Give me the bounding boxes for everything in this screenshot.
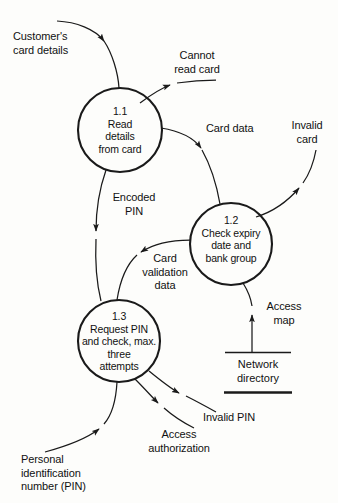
flow-cannot-read-card-tail (177, 80, 216, 83)
process-1-3-label: 1.3 Request PIN and check, max. three at… (70, 310, 168, 373)
flow-access-authorization-tail (164, 408, 194, 428)
flow-personal-identification-number-arrow (45, 429, 99, 452)
flow-label-card-validation-data: Card validation data (136, 252, 194, 293)
flow-invalid-card-arrow (256, 188, 299, 217)
flow-label-personal-identification-number: Personal identification number (PIN) (21, 453, 113, 494)
flow-invalid-card-tail (303, 150, 316, 183)
flow-cannot-read-card-arrow (140, 85, 170, 103)
flow-encoded-pin-tail (96, 239, 101, 301)
flow-label-card-data: Card data (206, 122, 264, 136)
flow-card-validation-data-arrow (141, 240, 190, 252)
process-1-1-label: 1.1 Read details from card (78, 105, 162, 155)
flow-access-authorization-arrow (135, 379, 158, 403)
flow-label-encoded-pin: Encoded PIN (106, 191, 162, 218)
datastore-network-directory-label: Network directory (222, 358, 294, 385)
flow-card-validation-data-tail (117, 255, 137, 300)
flow-label-invalid-pin: Invalid PIN (203, 411, 273, 425)
flow-invalid-pin-arrow (149, 371, 179, 393)
flow-card-data-arrow (161, 128, 201, 148)
flow-label-customers-card-details: Customer's card details (13, 30, 109, 57)
flow-access-map-tail (243, 283, 252, 306)
process-1-2-label: 1.2 Check expiry date and bank group (184, 214, 278, 264)
flow-invalid-pin-tail (186, 396, 216, 412)
flow-card-data-tail (202, 150, 220, 204)
flow-personal-identification-number-tail (104, 382, 117, 424)
flow-label-invalid-card: Invalid card (283, 119, 331, 146)
dfd-canvas: 1.1 Read details from card 1.2 Check exp… (0, 0, 338, 503)
flow-label-access-map: Access map (260, 300, 308, 327)
flow-label-cannot-read-card: Cannot read card (166, 49, 228, 76)
flow-encoded-pin-arrow (96, 170, 106, 231)
flow-label-access-authorization: Access authorization (141, 428, 217, 455)
